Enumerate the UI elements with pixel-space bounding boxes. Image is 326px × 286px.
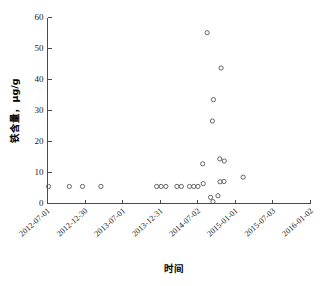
y-axis-tick-label: 40 <box>35 74 45 84</box>
data-point <box>99 184 103 188</box>
data-point <box>187 184 191 188</box>
y-axis-tick-label: 10 <box>35 167 45 177</box>
data-point <box>208 195 212 199</box>
chart-figure: 01020304050602012-07-012012-12-302013-07… <box>0 0 326 286</box>
data-point <box>211 98 215 102</box>
data-point <box>219 66 223 70</box>
data-point <box>175 184 179 188</box>
y-axis-tick-label: 0 <box>39 198 44 208</box>
data-point <box>216 194 220 198</box>
x-axis-title: 时间 <box>164 263 184 274</box>
data-point <box>241 175 245 179</box>
data-point <box>196 184 200 188</box>
data-point <box>201 182 205 186</box>
data-point <box>205 31 209 35</box>
scatter-plot: 01020304050602012-07-012012-12-302013-07… <box>0 0 326 286</box>
data-point <box>155 184 159 188</box>
y-axis-title: 铁含量，μg/g <box>9 78 20 142</box>
data-point <box>201 162 205 166</box>
data-series-iron-content <box>46 31 245 204</box>
data-point <box>164 184 168 188</box>
x-axis-tick-label: 2015-07-03 <box>243 206 277 238</box>
y-axis-tick-label: 50 <box>35 43 45 53</box>
x-axis-tick-label: 2013-12-31 <box>130 206 164 238</box>
data-point <box>192 184 196 188</box>
x-axis-tick-label: 2012-07-01 <box>17 206 51 238</box>
x-axis-tick-label: 2013-07-01 <box>93 206 127 238</box>
data-point <box>80 184 84 188</box>
data-point <box>179 184 183 188</box>
y-axis-tick-label: 20 <box>35 136 45 146</box>
x-axis-tick-label: 2016-01-02 <box>280 206 314 238</box>
data-point <box>67 184 71 188</box>
data-point <box>159 184 163 188</box>
y-axis-tick-label: 60 <box>35 12 45 22</box>
x-axis-tick-label: 2012-12-30 <box>55 206 89 238</box>
data-point <box>218 157 222 161</box>
data-point <box>210 119 214 123</box>
y-axis-tick-label: 30 <box>35 105 45 115</box>
x-axis-tick-label: 2014-07-02 <box>168 206 202 238</box>
x-axis-tick-label: 2015-01-01 <box>205 206 239 238</box>
data-point <box>222 159 226 163</box>
